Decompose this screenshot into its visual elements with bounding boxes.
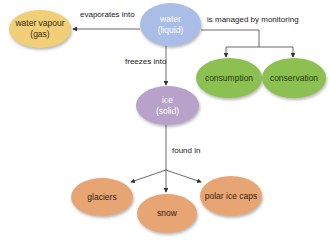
- node-label: water vapour: [15, 18, 64, 29]
- node-consumption: consumption: [196, 58, 262, 98]
- edge-label-found: found in: [172, 146, 200, 155]
- edge-label-evaporates: evaporates into: [80, 10, 135, 19]
- node-snow: snow: [137, 194, 197, 233]
- node-water-vapour: water vapour(gas): [9, 10, 71, 48]
- edge-label-managed: is managed by monitoring: [207, 15, 299, 24]
- node-glaciers: glaciers: [71, 178, 133, 216]
- node-sublabel: (solid): [156, 106, 179, 117]
- node-sublabel: (liquid): [158, 25, 184, 36]
- edge-label-freezes: freezes into: [125, 57, 166, 66]
- node-label: consumption: [205, 73, 253, 84]
- node-polar-ice-caps: polar ice caps: [200, 176, 262, 216]
- node-ice: ice(solid): [136, 86, 199, 125]
- node-label: water: [158, 14, 184, 25]
- node-label: conservation: [270, 73, 318, 84]
- node-label: ice: [156, 95, 179, 106]
- node-label: polar ice caps: [205, 191, 257, 202]
- node-sublabel: (gas): [15, 29, 64, 40]
- node-water: water(liquid): [140, 3, 201, 46]
- node-label: glaciers: [87, 192, 116, 203]
- node-conservation: conservation: [262, 58, 326, 98]
- node-label: snow: [157, 208, 177, 219]
